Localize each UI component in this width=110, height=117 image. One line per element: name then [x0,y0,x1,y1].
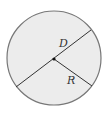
radius-label: R [66,74,75,87]
center-point [52,57,55,60]
diameter-label: D [58,37,68,50]
circle-diagram: D R [0,0,110,117]
